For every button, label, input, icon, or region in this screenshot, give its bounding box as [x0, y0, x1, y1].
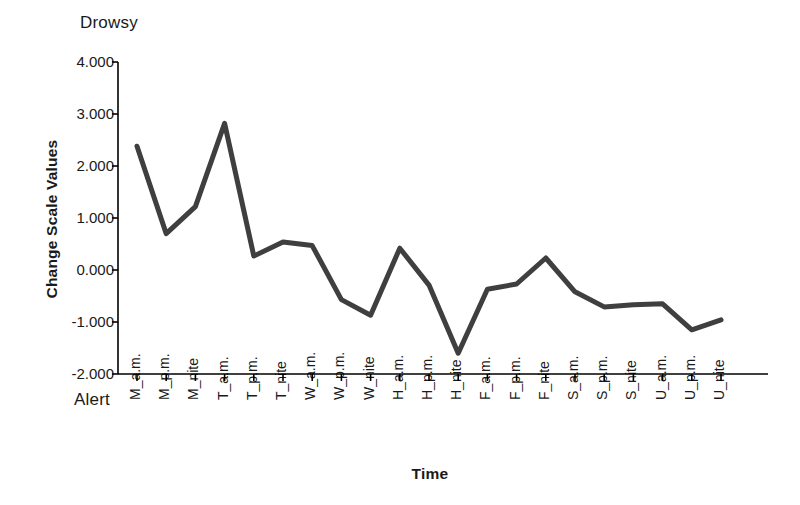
plot-area [0, 0, 800, 505]
data-series-line [137, 123, 721, 353]
chart-container: Drowsy Alert Change Scale Values Time 4.… [0, 0, 800, 505]
